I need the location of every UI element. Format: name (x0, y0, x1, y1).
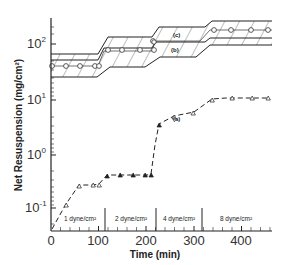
label-b: (b) (171, 47, 179, 53)
svg-text:300: 300 (183, 233, 205, 248)
y-axis-title: Net Resuspension (mg/cm²) (13, 59, 24, 191)
chart: (c) (b) (a) 102 101 100 10-1 (0, 0, 288, 265)
svg-text:4 dyne/cm²: 4 dyne/cm² (163, 215, 196, 223)
phase-labels: 1 dyne/cm² 2 dyne/cm² 4 dyne/cm² 8 dyne/… (64, 215, 253, 223)
svg-text:100: 100 (27, 146, 46, 162)
svg-text:200: 200 (135, 233, 157, 248)
svg-text:101: 101 (27, 91, 46, 107)
svg-text:8 dyne/cm²: 8 dyne/cm² (220, 215, 253, 223)
x-axis-title: Time (min) (130, 249, 180, 260)
svg-text:1 dyne/cm²: 1 dyne/cm² (64, 215, 97, 223)
y-tick-labels: 102 101 100 10-1 (25, 35, 47, 215)
label-c: (c) (173, 32, 180, 38)
svg-text:102: 102 (27, 35, 46, 51)
svg-text:100: 100 (87, 233, 109, 248)
svg-text:400: 400 (230, 233, 252, 248)
svg-text:2 dyne/cm²: 2 dyne/cm² (115, 215, 148, 223)
svg-text:10-1: 10-1 (25, 199, 47, 215)
band-c (51, 21, 272, 77)
series-a-line (52, 98, 268, 229)
series-a-markers (64, 96, 270, 207)
label-a: (a) (173, 116, 180, 122)
x-tick-labels: 0 100 200 300 400 (47, 233, 251, 248)
svg-text:0: 0 (47, 233, 54, 248)
